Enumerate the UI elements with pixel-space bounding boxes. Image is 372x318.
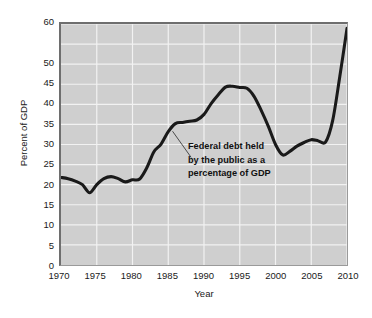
chart-figure: Percent of GDP 0510152025303540455060 19…	[0, 0, 372, 318]
x-axis-tick-label: 1975	[75, 270, 115, 281]
callout-line-2: by the public as a	[188, 154, 271, 168]
y-axis-tick-label: 30	[14, 138, 54, 150]
y-axis-tick-label: 60	[14, 16, 54, 28]
callout-line-3: percentage of GDP	[188, 167, 271, 181]
x-axis-tick-label: 1980	[111, 270, 151, 281]
x-axis-tick-label: 1985	[147, 270, 187, 281]
x-axis-title: Year	[59, 288, 349, 299]
x-axis-tick-label: 2005	[292, 270, 332, 281]
x-axis-tick-label: 2000	[256, 270, 296, 281]
callout-line-1: Federal debt held	[188, 140, 271, 154]
x-axis-tick-label: 1995	[220, 270, 260, 281]
y-axis-tick-label: 20	[14, 179, 54, 191]
x-axis-tick-label: 2010	[328, 270, 368, 281]
x-axis-tick-label: 1990	[184, 270, 224, 281]
y-axis-tick-label: 50	[14, 57, 54, 69]
y-axis-tick-label: 5	[14, 240, 54, 252]
series-callout-annotation: Federal debt held by the public as a per…	[188, 140, 271, 181]
y-axis-tick-label: 25	[14, 158, 54, 170]
y-axis-tick-label: 35	[14, 118, 54, 130]
y-axis-tick-label: 10	[14, 219, 54, 231]
y-axis-tick-label: 45	[14, 77, 54, 89]
y-axis-tick-label: 40	[14, 97, 54, 109]
x-axis-tick-label: 1970	[39, 270, 79, 281]
y-axis-tick-label: 15	[14, 199, 54, 211]
